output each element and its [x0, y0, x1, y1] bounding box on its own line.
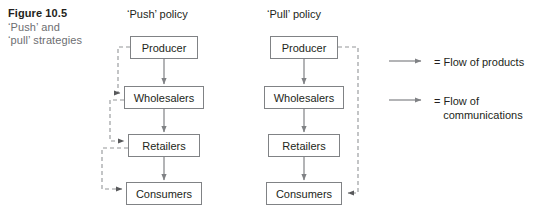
legend-sample-lines [389, 61, 421, 100]
push-dashed-producer-to-consumers [102, 148, 128, 189]
push-dashed-producer-to-retailers [110, 100, 124, 141]
figure-diagram: Figure 10.5 ‘Push’ and ‘pull’ strategies… [0, 0, 559, 219]
pull-communication-flow-arrows [338, 47, 358, 193]
push-communication-flow-arrows [102, 47, 130, 189]
push-dashed-producer-to-wholesalers [118, 47, 130, 93]
legend-label-products: = Flow of products [434, 55, 524, 69]
legend-label-communications: = Flow of communications [434, 94, 523, 122]
pull-dashed-producer-to-consumers [338, 47, 358, 193]
